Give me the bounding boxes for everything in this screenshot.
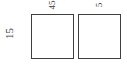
left-dimension-label: 15	[4, 19, 15, 49]
square-shape-second	[78, 14, 121, 59]
diagram-canvas: 15 45 5	[0, 0, 127, 66]
square-shape-first	[31, 14, 74, 59]
